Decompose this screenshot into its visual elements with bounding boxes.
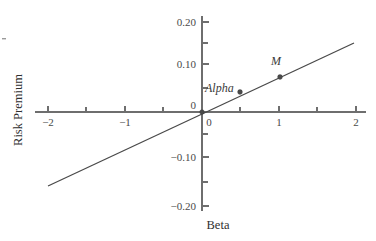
y-tick-label-0: 0: [191, 99, 197, 111]
security-market-line: [48, 43, 354, 186]
data-point-origin[interactable]: [200, 110, 205, 115]
y-tick-label--0_20: −0.20: [171, 200, 197, 212]
data-point-m[interactable]: [278, 75, 283, 80]
scan-artifact-mark: [2, 38, 6, 39]
x-tick-label--1: −1: [119, 116, 131, 128]
x-tick-label-2: 2: [353, 116, 359, 128]
y-tick-label--0_10: −0.10: [171, 151, 197, 163]
x-axis-title: Beta: [207, 218, 230, 232]
x-tick-label-1: 1: [276, 116, 282, 128]
x-tick-label-0: 0: [206, 116, 212, 128]
y-tick-label-0_20: 0.20: [177, 16, 197, 28]
point-label-m: M: [270, 54, 282, 68]
data-point-alpha[interactable]: [238, 90, 243, 95]
y-tick-label-0_10: 0.10: [177, 58, 197, 70]
y-axis-title: Risk Premium: [11, 74, 25, 146]
chart-figure: 0.20 0.10 0 −0.10 −0.20 −2 −1 0 1 2 Alph…: [0, 0, 376, 241]
x-tick-label--2: −2: [42, 116, 54, 128]
point-label-alpha: Alpha: [204, 81, 234, 95]
security-market-line-chart: 0.20 0.10 0 −0.10 −0.20 −2 −1 0 1 2 Alph…: [0, 0, 376, 241]
